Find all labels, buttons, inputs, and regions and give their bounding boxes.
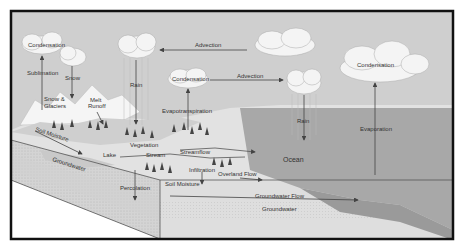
cloud-rain-left (118, 33, 156, 58)
label-streamflow: Streamflow (180, 149, 211, 155)
label-overland-flow: Overland Flow (218, 171, 257, 177)
label-condensation-left: Condensation (28, 42, 65, 48)
label-ocean: Ocean (283, 156, 304, 163)
label-lake: Lake (103, 152, 117, 158)
water-cycle-diagram: Condensation Sublimation Snow Snow & Gla… (0, 0, 462, 247)
label-melt-runoff-2: Runoff (88, 103, 106, 109)
label-advection-middle: Advection (237, 73, 263, 79)
label-groundwater-front: Groundwater (262, 206, 297, 212)
label-snow-glaciers-2: Glaciers (44, 103, 66, 109)
label-sublimation: Sublimation (27, 70, 58, 76)
label-soil-moisture-front: Soil Moisture (165, 181, 200, 187)
label-groundwater-flow: Groundwater Flow (255, 193, 305, 199)
label-stream: Stream (146, 152, 165, 158)
label-snow: Snow (65, 75, 81, 81)
label-evapotranspiration: Evapotranspiration (162, 108, 212, 114)
label-rain-right: Rain (297, 118, 309, 124)
cloud-rain-right (287, 69, 321, 94)
label-evaporation: Evaporation (360, 126, 392, 132)
label-condensation-right: Condensation (357, 62, 394, 68)
label-snow-glaciers: Snow & (44, 96, 65, 102)
label-advection-top: Advection (195, 42, 221, 48)
label-condensation-middle: Condensation (172, 76, 209, 82)
label-infiltration: Infiltration (189, 167, 215, 173)
label-percolation: Percolation (120, 185, 150, 191)
label-rain-left: Rain (130, 82, 142, 88)
label-vegetation: Vegetation (130, 142, 158, 148)
